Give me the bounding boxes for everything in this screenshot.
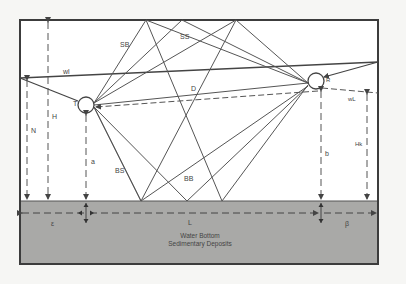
receiver-label: R xyxy=(326,77,330,83)
dim-label-left-offset: ε xyxy=(51,220,54,227)
multipath-propagation-diagram: T R SB SS D BS BB wl wL H N a b Hk L ε β… xyxy=(0,0,406,284)
ray-label-sb: SB xyxy=(120,41,129,48)
dim-label-right-offset: β xyxy=(345,220,349,227)
dim-label-b: b xyxy=(325,150,329,157)
receiver-node xyxy=(308,73,324,89)
dim-label-Hk: Hk xyxy=(355,141,362,147)
dim-label-H: H xyxy=(52,113,57,120)
dim-label-L: L xyxy=(188,219,192,226)
sediment-label: Sedimentary Deposits xyxy=(168,241,232,248)
transmitter-label: T xyxy=(73,100,77,107)
dim-label-N: N xyxy=(31,127,36,134)
transmitter-node xyxy=(78,97,94,113)
dim-label-a: a xyxy=(91,158,95,165)
water-bottom-label: Water Bottom xyxy=(180,233,220,240)
ray-label-bb: BB xyxy=(184,175,193,182)
ray-label-ss: SS xyxy=(180,33,189,40)
water-column xyxy=(20,20,378,201)
water-surface-label-left: wl xyxy=(63,68,70,75)
ray-label-bs: BS xyxy=(115,167,124,174)
ray-label-d: D xyxy=(191,85,196,92)
water-surface-label-right: wL xyxy=(348,96,356,102)
